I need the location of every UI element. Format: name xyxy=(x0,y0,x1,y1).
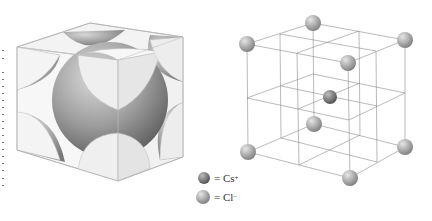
legend-cl-label: = Cl xyxy=(214,191,233,203)
atom-bottom-right xyxy=(397,139,413,155)
cscl-unit-cell-figure xyxy=(0,0,432,221)
legend-cl-charge: − xyxy=(233,193,237,201)
legend-cl: = Cl− xyxy=(194,189,237,205)
atom-top-front xyxy=(340,55,356,71)
atom-top-left xyxy=(239,36,255,52)
cl-ion-sphere-icon xyxy=(194,189,212,205)
atom-top-right xyxy=(397,32,413,48)
atom-bottom-left xyxy=(240,144,256,160)
space-filling-unit-cell xyxy=(17,23,183,181)
cropped-caption-fragments xyxy=(2,50,4,186)
atom-center-cs xyxy=(323,90,337,104)
atom-top-back xyxy=(305,15,321,31)
legend-cs-label: = Cs xyxy=(214,172,235,184)
legend-cs-charge: + xyxy=(235,174,239,182)
lattice-atoms xyxy=(239,15,413,186)
atom-bottom-back xyxy=(306,116,322,132)
legend-cs: = Cs+ xyxy=(196,171,239,185)
atom-bottom-front xyxy=(342,170,358,186)
cs-ion-sphere-icon xyxy=(196,171,212,185)
